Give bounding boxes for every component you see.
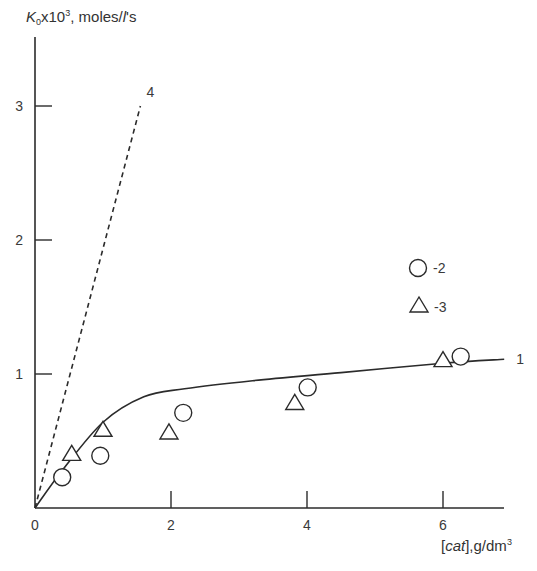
y-label-mid: x10 bbox=[41, 8, 65, 25]
x-tick-label: 2 bbox=[167, 517, 175, 533]
x-label-cat: cat bbox=[445, 537, 465, 554]
legend-label-2: -2 bbox=[433, 260, 446, 276]
curve-labels: 14 bbox=[146, 84, 524, 367]
triangle-marker bbox=[63, 445, 81, 460]
y-label-rest2: 's bbox=[126, 8, 136, 25]
y-label-k: K bbox=[26, 8, 36, 25]
triangle-marker bbox=[286, 394, 304, 409]
y-tick-label: 1 bbox=[15, 366, 23, 382]
x-label-close: ],g/dm bbox=[465, 537, 507, 554]
triangle-marker bbox=[434, 352, 452, 367]
y-label-rest1: , moles/ bbox=[70, 8, 123, 25]
y-tick-label: 2 bbox=[15, 232, 23, 248]
x-label-sup: 3 bbox=[507, 537, 512, 547]
circle-marker bbox=[54, 469, 71, 486]
circle-marker bbox=[92, 447, 109, 464]
axis-ticks: 0246123 bbox=[15, 98, 447, 533]
y-tick-label: 3 bbox=[15, 98, 23, 114]
legend-circle-icon bbox=[410, 260, 427, 277]
curve-4 bbox=[35, 106, 140, 508]
plot-area: 0246123 14 -2-3 bbox=[0, 0, 537, 571]
data-markers bbox=[54, 348, 469, 486]
circle-marker bbox=[175, 404, 192, 421]
x-axis-label: [cat],g/dm3 bbox=[441, 537, 512, 554]
legend-label-3: -3 bbox=[434, 299, 447, 315]
circle-marker bbox=[299, 379, 316, 396]
x-tick-label: 6 bbox=[439, 517, 447, 533]
y-axis-label: K0x103, moles/l's bbox=[26, 8, 136, 27]
curve-label-4: 4 bbox=[146, 84, 154, 100]
legend-triangle-icon bbox=[410, 297, 428, 312]
chart-figure: 0246123 14 -2-3 K0x103, moles/l's [cat],… bbox=[0, 0, 537, 571]
circle-marker bbox=[452, 348, 469, 365]
curve-label-1: 1 bbox=[516, 351, 524, 367]
x-tick-label: 4 bbox=[303, 517, 311, 533]
legend: -2-3 bbox=[410, 260, 447, 316]
triangle-marker bbox=[160, 424, 178, 439]
x-tick-label: 0 bbox=[31, 517, 39, 533]
